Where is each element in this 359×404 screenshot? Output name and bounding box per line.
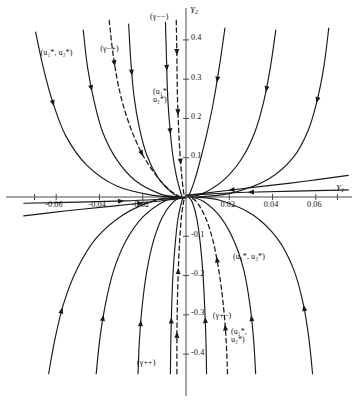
y-tick-label: 0.3 bbox=[191, 74, 202, 83]
y-tick-label: -0.4 bbox=[191, 349, 204, 358]
x-axis-name: Y1 bbox=[336, 184, 344, 194]
y-axis-name: Y2 bbox=[190, 6, 198, 16]
x-tick-label: 0.02 bbox=[220, 201, 235, 210]
x-tick-label: 0.04 bbox=[264, 201, 279, 210]
annotation-gamma-minus-plus: (γ−+) bbox=[100, 45, 118, 53]
annotation-equilibrium-bottom-right: (u₁*,u₂*) bbox=[231, 328, 247, 345]
annotation-equilibrium-lower-right: (u₁*, u₂*) bbox=[233, 253, 265, 261]
y-tick-label: -0.1 bbox=[191, 231, 204, 240]
annotation-gamma-plus-minus: (γ+−) bbox=[213, 312, 231, 320]
y-tick-label: -0.3 bbox=[191, 309, 204, 318]
x-tick-label: -0.04 bbox=[88, 201, 106, 210]
y-tick-label: -0.2 bbox=[191, 270, 204, 279]
annotation-equilibrium-center-upper: (u₁*,u₂*) bbox=[153, 88, 169, 105]
y-tick-label: 0.1 bbox=[191, 152, 202, 161]
x-tick-label: 0.06 bbox=[307, 201, 322, 210]
annotation-gamma-plus-plus: (γ++) bbox=[137, 359, 155, 367]
x-tick-label: -0.02 bbox=[132, 201, 150, 210]
y-tick-label: 0.2 bbox=[191, 113, 202, 122]
y-tick-label: 0.4 bbox=[191, 34, 202, 43]
annotation-gamma-minus-minus: (γ−−) bbox=[150, 13, 168, 21]
annotation-equilibrium-upper-left: (u₁*, u₂*) bbox=[41, 49, 73, 57]
x-tick-label: -0.06 bbox=[45, 201, 63, 210]
